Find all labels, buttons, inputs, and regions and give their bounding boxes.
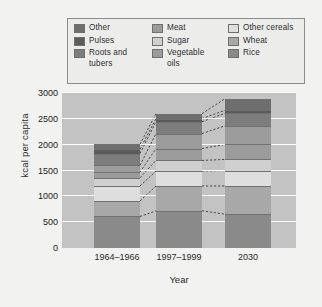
legend-swatch-icon — [152, 37, 163, 46]
legend-swatch-icon — [74, 24, 85, 33]
legend-item-label: Roots and tubers — [89, 48, 127, 69]
bar-segment[interactable] — [156, 171, 202, 186]
bar-segment[interactable] — [156, 122, 202, 134]
legend-swatch-icon — [74, 49, 85, 58]
legend-item[interactable]: Wheat — [228, 36, 306, 47]
legend-swatch-icon — [74, 37, 85, 46]
legend-item-label: Wheat — [243, 36, 267, 47]
legend-item-label: Other — [89, 23, 110, 34]
chart-legend: OtherMeatOther cerealsPulsesSugarWheatRo… — [67, 18, 305, 84]
legend-item[interactable]: Pulses — [74, 36, 152, 47]
connector-line — [140, 186, 156, 201]
bar-segment[interactable] — [94, 186, 140, 201]
connector-line — [202, 144, 225, 148]
legend-item-label: Vegetable oils — [167, 48, 204, 69]
legend-item[interactable]: Other cereals — [228, 23, 306, 34]
legend-item[interactable]: Other — [74, 23, 152, 34]
bar-segment[interactable] — [225, 171, 271, 187]
bar-segment[interactable] — [225, 144, 271, 159]
bar-segment[interactable] — [225, 99, 271, 111]
bar-segment[interactable] — [156, 149, 202, 161]
connector-line — [202, 126, 225, 134]
legend-item[interactable]: Rice — [228, 48, 306, 69]
bar-segment[interactable] — [225, 113, 271, 125]
bar-segment[interactable] — [156, 186, 202, 211]
y-axis-tick: 0 — [24, 243, 58, 253]
legend-item-label: Rice — [243, 48, 260, 59]
y-axis-tick: 500 — [24, 217, 58, 227]
connector-line — [140, 211, 156, 217]
legend-swatch-icon — [152, 49, 163, 58]
connector-line — [140, 119, 156, 150]
legend-item[interactable]: Sugar — [152, 36, 228, 47]
x-axis-title: Year — [62, 274, 296, 285]
bar-segment[interactable] — [225, 186, 271, 214]
y-axis-title: kcal per capita — [19, 86, 30, 206]
legend-swatch-icon — [228, 49, 239, 58]
legend-swatch-icon — [228, 37, 239, 46]
legend-item-label: Other cereals — [243, 23, 293, 34]
bar-segment[interactable] — [94, 216, 140, 248]
legend-swatch-icon — [152, 24, 163, 33]
bar-segment[interactable] — [225, 126, 271, 145]
chart-figure: OtherMeatOther cerealsPulsesSugarWheatRo… — [0, 0, 322, 307]
bar-segment[interactable] — [94, 178, 140, 186]
legend-item[interactable]: Meat — [152, 23, 228, 34]
connector-line — [202, 171, 225, 172]
bar-segment[interactable] — [94, 165, 140, 172]
connector-line — [140, 122, 156, 154]
bar-2[interactable] — [156, 114, 202, 248]
bar-segment[interactable] — [156, 134, 202, 149]
bar-1[interactable] — [94, 144, 140, 248]
bar-3[interactable] — [225, 99, 271, 248]
legend-swatch-icon — [228, 24, 239, 33]
legend-item[interactable]: Vegetable oils — [152, 48, 228, 69]
legend-item-label: Sugar — [167, 36, 189, 47]
plot-area — [62, 93, 296, 248]
bar-segment[interactable] — [94, 201, 140, 217]
legend-item[interactable]: Roots and tubers — [74, 48, 152, 69]
legend-item-label: Pulses — [89, 36, 114, 47]
bar-segment[interactable] — [225, 159, 271, 170]
bar-segment[interactable] — [156, 211, 202, 248]
connector-line — [140, 134, 156, 166]
gridline — [62, 92, 296, 93]
connector-line — [202, 211, 225, 214]
connector-line — [140, 171, 156, 186]
bar-segment[interactable] — [94, 154, 140, 166]
bar-segment[interactable] — [225, 214, 271, 248]
legend-item-label: Meat — [167, 23, 186, 34]
bar-segment[interactable] — [156, 160, 202, 171]
x-axis-tick: 2030 — [203, 252, 293, 262]
connector-line — [202, 99, 225, 114]
connector-line — [202, 159, 225, 160]
x-axis-tick-labels: 1964–19661997–19992030 — [62, 252, 296, 266]
